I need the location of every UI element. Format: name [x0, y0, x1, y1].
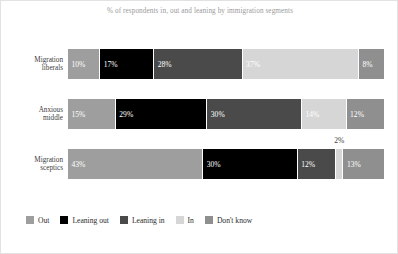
bar-segment-label: 13% — [343, 160, 360, 169]
bar-row-label: Migrationsceptics — [9, 156, 63, 173]
bar-segment-label: 12% — [347, 110, 364, 119]
bar-segment[interactable]: 29% — [116, 99, 207, 129]
bar-segment[interactable]: 12% — [298, 149, 336, 179]
bar-segment[interactable]: 12% — [347, 99, 384, 129]
bar-segment-label: 28% — [154, 60, 171, 69]
bar-row: Anxiousmiddle15%29%30%14%12% — [1, 99, 398, 129]
bar-segment[interactable]: 30% — [207, 99, 302, 129]
bar-row-label-line1: Migration — [9, 56, 63, 64]
bar-segment[interactable]: 37% — [243, 49, 359, 79]
legend-swatch-icon — [60, 216, 68, 224]
legend-item[interactable]: Leaning out — [60, 216, 108, 225]
bar-segment-label: 8% — [359, 60, 373, 69]
bar-track: 15%29%30%14%12% — [68, 99, 384, 129]
bar-segment[interactable]: 15% — [68, 99, 116, 129]
bar-row-label: Migrationliberals — [9, 56, 63, 73]
legend-swatch-icon — [205, 216, 213, 224]
bar-row-label-line1: Anxious — [9, 106, 63, 114]
plot-area: Migrationliberals10%17%28%37%8%Anxiousmi… — [1, 31, 398, 191]
bar-row: Migrationliberals10%17%28%37%8% — [1, 49, 398, 79]
bar-segment-label: 10% — [68, 60, 85, 69]
legend-item[interactable]: In — [176, 216, 194, 225]
bar-segment-label: 2% — [334, 136, 344, 145]
bar-row-label-line2: liberals — [9, 64, 63, 72]
bar-segment-label: 17% — [100, 60, 117, 69]
bar-segment-label: 14% — [302, 110, 319, 119]
legend-swatch-icon — [120, 216, 128, 224]
bar-segment[interactable]: 14% — [302, 99, 347, 129]
bar-segment-label: 43% — [68, 160, 85, 169]
bar-segment[interactable]: 30% — [203, 149, 298, 179]
bar-row-label-line2: sceptics — [9, 164, 63, 172]
bar-segment[interactable]: 2% — [336, 149, 343, 179]
bar-row: Migrationsceptics43%30%12%2%13% — [1, 149, 398, 179]
chart-title: % of respondents in, out and leaning by … — [1, 7, 398, 15]
bar-segment[interactable]: 8% — [359, 49, 384, 79]
bar-track: 43%30%12%2%13% — [68, 149, 384, 179]
legend-swatch-icon — [176, 216, 184, 224]
chart-legend: OutLeaning outLeaning inInDon't know — [26, 213, 263, 227]
legend-label: Leaning out — [72, 216, 108, 225]
bar-track: 10%17%28%37%8% — [68, 49, 384, 79]
bar-segment[interactable]: 13% — [343, 149, 384, 179]
bar-segment-label: 37% — [243, 60, 260, 69]
legend-label: Don't know — [217, 216, 252, 225]
legend-item[interactable]: Out — [26, 216, 49, 225]
bar-segment-label: 30% — [207, 110, 224, 119]
bar-row-label-line2: middle — [9, 114, 63, 122]
legend-label: In — [188, 216, 194, 225]
legend-label: Leaning in — [132, 216, 165, 225]
bar-segment[interactable]: 28% — [154, 49, 242, 79]
bar-row-label-line1: Migration — [9, 156, 63, 164]
legend-item[interactable]: Don't know — [205, 216, 252, 225]
chart-figure: % of respondents in, out and leaning by … — [0, 0, 398, 254]
bar-segment-label: 12% — [298, 160, 315, 169]
bar-segment-label: 15% — [68, 110, 85, 119]
legend-item[interactable]: Leaning in — [120, 216, 165, 225]
bar-row-label: Anxiousmiddle — [9, 106, 63, 123]
bar-segment[interactable]: 43% — [68, 149, 203, 179]
bar-segment[interactable]: 10% — [68, 49, 100, 79]
bar-segment[interactable]: 17% — [100, 49, 154, 79]
bar-segment-label: 30% — [203, 160, 220, 169]
bar-segment-label: 29% — [116, 110, 133, 119]
legend-swatch-icon — [26, 216, 34, 224]
legend-label: Out — [38, 216, 49, 225]
